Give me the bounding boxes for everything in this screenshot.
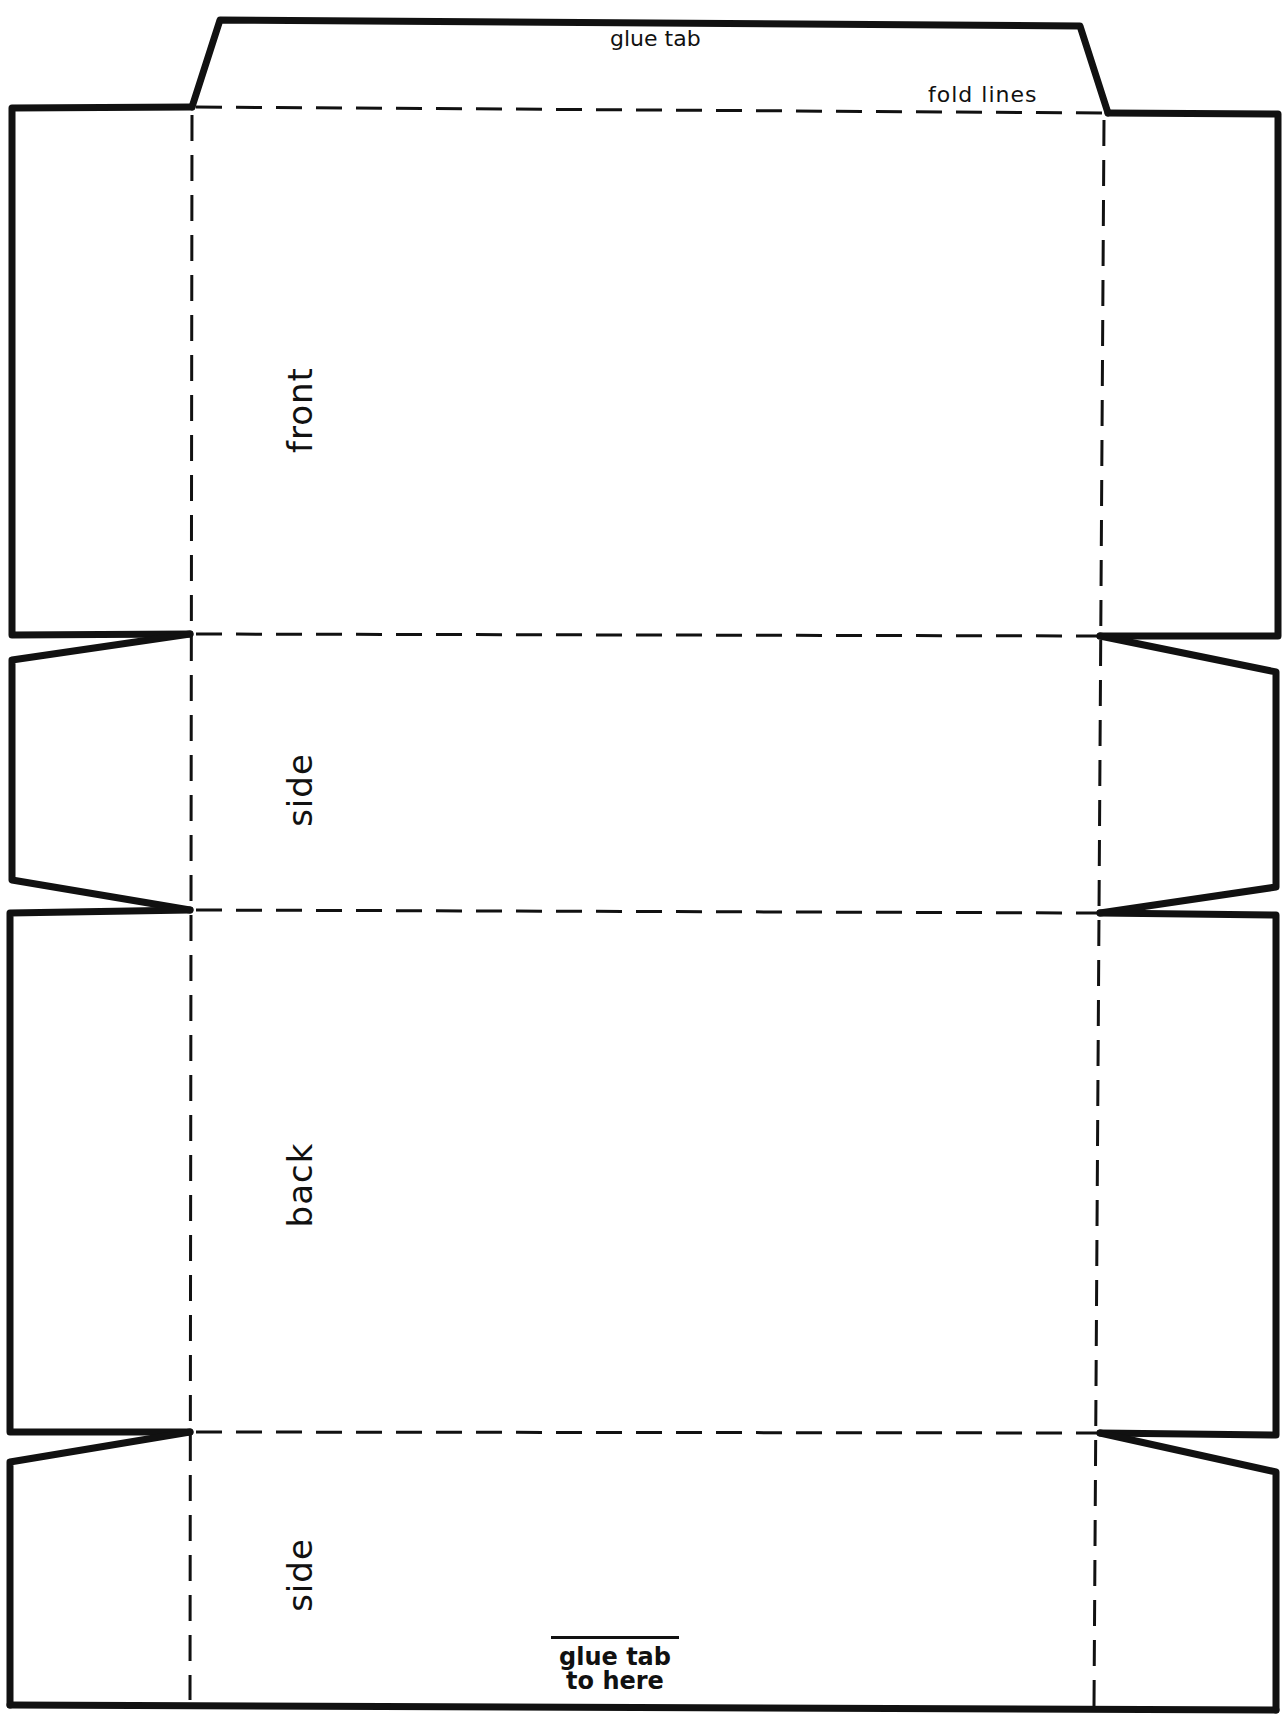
side1-right-flap: [1100, 636, 1276, 913]
fold-line-top: [196, 107, 1104, 113]
side1-left-flap: [12, 634, 190, 910]
overline-divider: [551, 1636, 679, 1639]
back-left-flap: [10, 910, 190, 1432]
back-right-flap: [1100, 913, 1276, 1435]
fold-line-side-back: [196, 910, 1098, 913]
fold-lines-label: fold lines: [928, 82, 1037, 107]
front-panel-label: front: [280, 350, 320, 470]
glue-here-line1: glue tab: [545, 1645, 685, 1669]
fold-line-front-side: [196, 634, 1098, 636]
bottom-edge: [10, 1705, 1276, 1710]
side2-right-flap: [1100, 1433, 1276, 1710]
box-net-drawing: [0, 0, 1288, 1718]
back-panel-label: back: [280, 1130, 320, 1240]
fold-line-back-side: [196, 1432, 1098, 1433]
side2-left-flap: [10, 1432, 190, 1705]
box-net-diagram: glue tab fold lines front side back side…: [0, 0, 1288, 1718]
front-left-flap: [12, 107, 192, 635]
glue-tab-label: glue tab: [610, 26, 701, 51]
glue-here-line2: to here: [545, 1669, 685, 1693]
side-panel-2-label: side: [280, 1525, 320, 1625]
front-right-flap: [1100, 113, 1278, 636]
side-panel-1-label: side: [280, 740, 320, 840]
glue-tab-to-here-label: glue tab to here: [545, 1636, 685, 1693]
